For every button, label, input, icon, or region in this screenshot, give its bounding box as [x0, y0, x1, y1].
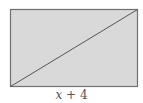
width-label: x + 4	[0, 88, 143, 102]
width-label-rest: + 4	[62, 88, 87, 102]
